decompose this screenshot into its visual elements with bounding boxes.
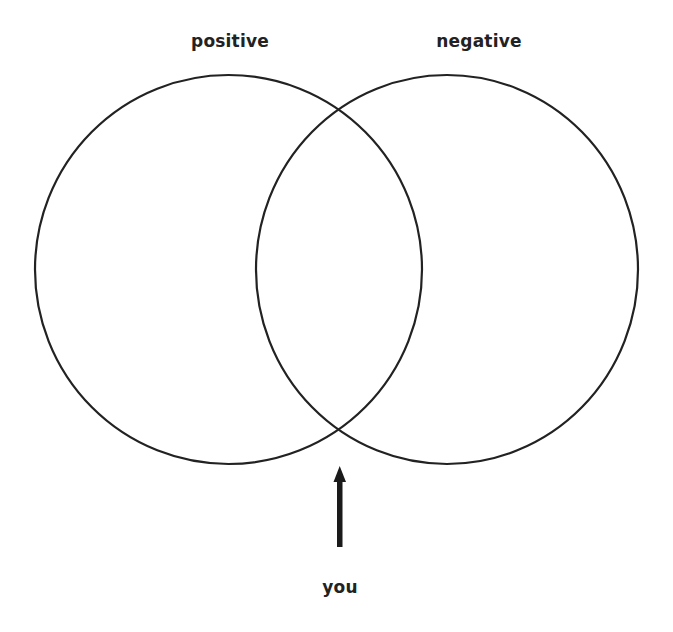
- up-arrow-icon: [334, 466, 347, 547]
- you-label: you: [322, 577, 357, 597]
- venn-diagram: [0, 0, 673, 632]
- positive-circle: [35, 75, 422, 464]
- negative-circle: [256, 75, 638, 464]
